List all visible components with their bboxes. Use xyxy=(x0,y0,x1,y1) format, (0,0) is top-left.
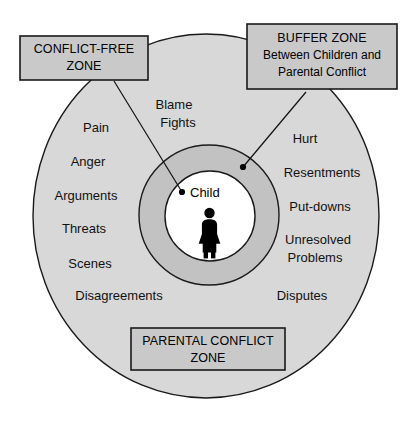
conflict-zones-diagram: Child Pain Anger Arguments Threats Scene… xyxy=(0,0,418,429)
buffer-zone-box[interactable]: BUFFER ZONE Between Children and Parenta… xyxy=(247,24,397,89)
conflict-item-threats: Threats xyxy=(62,221,107,236)
parental-conflict-zone-box[interactable]: PARENTAL CONFLICT ZONE xyxy=(131,328,285,370)
conflict-free-zone-box-line2: ZONE xyxy=(66,59,101,73)
buffer-zone-box-line3: Parental Conflict xyxy=(278,65,367,79)
conflict-item-disputes: Disputes xyxy=(277,288,328,303)
conflict-item-pain: Pain xyxy=(83,120,109,135)
conflict-item-disagreements: Disagreements xyxy=(75,288,163,303)
conflict-item-resentments: Resentments xyxy=(284,165,361,180)
conflict-item-put-downs: Put-downs xyxy=(289,199,351,214)
buffer-zone-box-line1: BUFFER ZONE xyxy=(277,31,366,45)
parental-conflict-zone-box-line1: PARENTAL CONFLICT xyxy=(142,334,274,348)
conflict-free-zone-box-line1: CONFLICT-FREE xyxy=(34,42,135,56)
conflict-free-zone-box[interactable]: CONFLICT-FREE ZONE xyxy=(20,36,148,80)
conflict-item-arguments: Arguments xyxy=(55,188,118,203)
conflict-item-fights: Fights xyxy=(160,115,196,130)
diagram-canvas: Child Pain Anger Arguments Threats Scene… xyxy=(0,0,418,429)
conflict-item-unresolved: Unresolved xyxy=(285,232,351,247)
conflict-item-anger: Anger xyxy=(71,154,106,169)
conflict-item-problems: Problems xyxy=(288,250,343,265)
conflict-item-blame: Blame xyxy=(156,97,193,112)
buffer-zone-box-line2: Between Children and xyxy=(263,48,381,62)
conflict-item-scenes: Scenes xyxy=(68,256,112,271)
conflict-item-hurt: Hurt xyxy=(293,131,318,146)
child-label: Child xyxy=(190,185,220,200)
parental-conflict-zone-box-line2: ZONE xyxy=(190,351,225,365)
